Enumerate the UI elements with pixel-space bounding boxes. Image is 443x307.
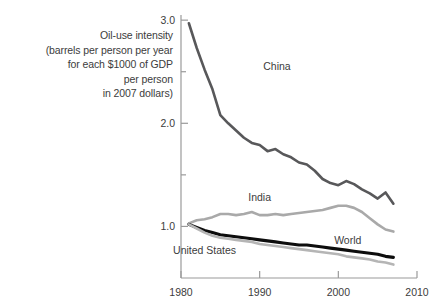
series-label-india: India [248, 191, 271, 203]
y-tick-label: 2.0 [160, 117, 175, 129]
oil-use-intensity-figure: Oil-use intensity (barrels per person pe… [0, 0, 443, 307]
x-axis-ticks: 1980199020002010 [169, 271, 429, 298]
y-axis-caption-line-1: Oil-use intensity [10, 28, 173, 43]
series-label-china: China [263, 60, 291, 72]
y-axis-caption-line-3: for each $1000 of GDP [10, 57, 173, 72]
y-axis-caption-line-2: (barrels per person per year [10, 43, 173, 58]
series-labels: ChinaIndiaWorldUnited States [173, 60, 361, 257]
series-line-china [189, 23, 394, 203]
x-tick-label: 2000 [327, 286, 351, 298]
y-tick-label: 3.0 [160, 14, 175, 26]
y-tick-label: 1.0 [160, 220, 175, 232]
series-line-india [189, 206, 394, 232]
axes [181, 15, 417, 278]
series-label-united-states: United States [173, 244, 236, 256]
x-tick-label: 2010 [405, 286, 429, 298]
series-lines [189, 23, 394, 264]
y-axis-caption-line-4: per person [10, 72, 173, 87]
y-axis-caption: Oil-use intensity (barrels per person pe… [10, 28, 173, 101]
y-axis-caption-line-5: in 2007 dollars) [10, 86, 173, 101]
series-label-world: World [334, 234, 361, 246]
x-tick-label: 1980 [169, 286, 193, 298]
x-tick-label: 1990 [248, 286, 272, 298]
